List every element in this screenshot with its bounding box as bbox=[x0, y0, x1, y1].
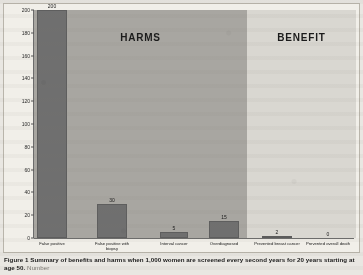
y-axis-tick-label: 20 bbox=[24, 212, 30, 218]
y-axis-tick-mark bbox=[31, 78, 34, 79]
bar-value-label: 200 bbox=[48, 3, 56, 9]
y-axis-tick-label: 160 bbox=[22, 53, 30, 59]
benefit-region-background bbox=[247, 10, 356, 238]
x-axis-category-label: False positive with biopsy bbox=[90, 241, 134, 252]
y-axis-tick-mark bbox=[31, 10, 34, 11]
figure-caption-tail: Number bbox=[25, 264, 49, 271]
x-axis-labels: False positiveFalse positive with biopsy… bbox=[34, 240, 356, 254]
y-axis-tick-label: 120 bbox=[22, 98, 30, 104]
x-axis-category-label: Prevented overall death bbox=[304, 241, 352, 246]
x-axis-line bbox=[34, 238, 354, 239]
bar-value-label: 0 bbox=[327, 231, 330, 237]
bar-value-label: 5 bbox=[173, 225, 176, 231]
bar-value-label: 2 bbox=[276, 229, 279, 235]
bar-1[interactable] bbox=[37, 10, 67, 238]
y-axis-tick-mark bbox=[31, 169, 34, 170]
y-axis-tick-label: 180 bbox=[22, 30, 30, 36]
benefit-region-title: BENEFIT bbox=[247, 32, 356, 43]
x-axis-category-label: Overdiagnosed bbox=[202, 241, 246, 246]
y-axis-tick-mark bbox=[31, 55, 34, 56]
y-axis: 020406080100120140160180200 bbox=[4, 10, 34, 238]
y-axis-tick-mark bbox=[31, 124, 34, 125]
figure-caption: Figure 1 Summary of benefits and harms w… bbox=[4, 256, 360, 272]
y-axis-tick-mark bbox=[31, 101, 34, 102]
x-axis-category-label: Prevented breast cancer bbox=[253, 241, 301, 246]
y-axis-tick-mark bbox=[31, 192, 34, 193]
bar-value-label: 30 bbox=[109, 197, 115, 203]
figure-panel: HARMS BENEFIT 2003051520 020406080100120… bbox=[3, 3, 360, 253]
y-axis-tick-label: 80 bbox=[24, 144, 30, 150]
chart-plot-area: HARMS BENEFIT 2003051520 bbox=[34, 10, 356, 238]
y-axis-tick-label: 200 bbox=[22, 7, 30, 13]
y-axis-tick-label: 100 bbox=[22, 121, 30, 127]
bar-2[interactable] bbox=[97, 204, 127, 238]
y-axis-tick-label: 140 bbox=[22, 75, 30, 81]
y-axis-tick-label: 40 bbox=[24, 189, 30, 195]
y-axis-tick-mark bbox=[31, 215, 34, 216]
x-axis-category-label: False positive bbox=[30, 241, 74, 246]
y-axis-tick-label: 60 bbox=[24, 167, 30, 173]
bar-value-label: 15 bbox=[221, 214, 227, 220]
figure-caption-main: Figure 1 Summary of benefits and harms w… bbox=[4, 256, 355, 271]
harms-region-title: HARMS bbox=[34, 32, 247, 43]
y-axis-tick-mark bbox=[31, 146, 34, 147]
bar-4[interactable] bbox=[209, 221, 239, 238]
x-axis-category-label: Interval cancer bbox=[152, 241, 196, 246]
y-axis-tick-mark bbox=[31, 32, 34, 33]
